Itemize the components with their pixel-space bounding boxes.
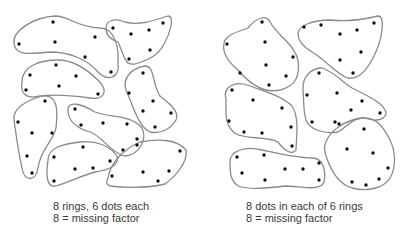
left-ring-1: [14, 16, 118, 78]
dot: [161, 21, 164, 24]
dot: [73, 107, 76, 110]
dot: [147, 28, 150, 31]
dot: [16, 120, 19, 123]
dot: [141, 71, 144, 74]
dot: [91, 166, 94, 169]
dot: [360, 99, 363, 102]
ring-outline: [298, 16, 382, 78]
dot: [235, 155, 238, 158]
dot: [30, 131, 33, 134]
dot: [302, 25, 305, 28]
dot: [267, 83, 270, 86]
dot: [169, 111, 172, 114]
dot: [378, 111, 381, 114]
dot: [74, 74, 77, 77]
dot: [43, 99, 46, 102]
dot: [230, 88, 233, 91]
dot: [111, 26, 114, 29]
right-caption-line2: 8 = missing factor: [246, 212, 363, 224]
ring-outline: [14, 96, 57, 179]
dot: [337, 122, 340, 125]
dot: [135, 137, 138, 140]
dot: [319, 23, 322, 26]
left-ring-2: [106, 16, 171, 64]
dot: [101, 121, 104, 124]
right-ring-5: [230, 149, 325, 189]
dot: [371, 151, 374, 154]
dot: [79, 123, 82, 126]
dot: [290, 144, 293, 147]
dot: [156, 179, 159, 182]
dot: [225, 42, 228, 45]
ring-outline: [125, 66, 177, 133]
dot: [345, 147, 348, 150]
right-caption-line1: 8 dots in each of 6 rings: [246, 200, 363, 212]
dot: [260, 131, 263, 134]
left-caption: 8 rings, 6 dots each 8 = missing factor: [53, 200, 149, 224]
dot: [83, 55, 86, 58]
dot: [263, 40, 266, 43]
dot: [24, 88, 27, 91]
dot: [167, 169, 170, 172]
dot: [372, 21, 375, 24]
dot: [30, 171, 33, 174]
dot: [227, 119, 230, 122]
dot: [54, 63, 57, 66]
dot: [17, 42, 20, 45]
dot: [50, 131, 53, 134]
dot: [238, 71, 241, 74]
dot: [28, 73, 31, 76]
dot: [351, 71, 354, 74]
right-caption: 8 dots in each of 6 rings 8 = missing fa…: [246, 200, 363, 224]
ring-outline: [68, 104, 144, 156]
dot: [301, 167, 304, 170]
right-ring-2: [298, 16, 382, 78]
dot: [386, 166, 389, 169]
dot: [127, 57, 130, 60]
dot: [57, 84, 60, 87]
left-ring-group: [14, 16, 186, 187]
dot: [349, 108, 352, 111]
right-ring-6: [325, 118, 395, 190]
dot: [242, 130, 245, 133]
dot: [127, 91, 130, 94]
dot: [362, 127, 365, 130]
dot: [52, 179, 55, 182]
dot: [317, 161, 320, 164]
ring-outline: [224, 18, 299, 91]
dot: [125, 122, 128, 125]
dot: [263, 178, 266, 181]
dot: [240, 171, 243, 174]
dot: [148, 48, 151, 51]
rings-diagram: [0, 0, 403, 231]
dot: [264, 63, 267, 66]
left-ring-6: [68, 104, 144, 156]
dot: [153, 125, 156, 128]
left-caption-line2: 8 = missing factor: [53, 212, 149, 224]
dot: [280, 106, 283, 109]
dot: [317, 178, 320, 181]
dot: [283, 167, 286, 170]
ring-outline: [230, 149, 325, 189]
dot: [178, 149, 181, 152]
left-ring-8: [107, 140, 187, 187]
dot: [305, 93, 308, 96]
dot: [51, 20, 54, 23]
dot: [333, 120, 336, 123]
dot: [289, 125, 292, 128]
right-ring-3: [225, 84, 297, 153]
dot: [52, 155, 55, 158]
dot: [110, 174, 113, 177]
dot: [335, 91, 338, 94]
dot: [108, 159, 111, 162]
ring-outline: [325, 118, 395, 190]
dot: [364, 183, 367, 186]
dot: [310, 120, 313, 123]
dot: [141, 170, 144, 173]
dot: [260, 20, 263, 23]
dot: [109, 70, 112, 73]
right-ring-group: [224, 16, 395, 190]
dot: [377, 177, 380, 180]
ring-outline: [225, 84, 297, 153]
dot: [338, 58, 341, 61]
